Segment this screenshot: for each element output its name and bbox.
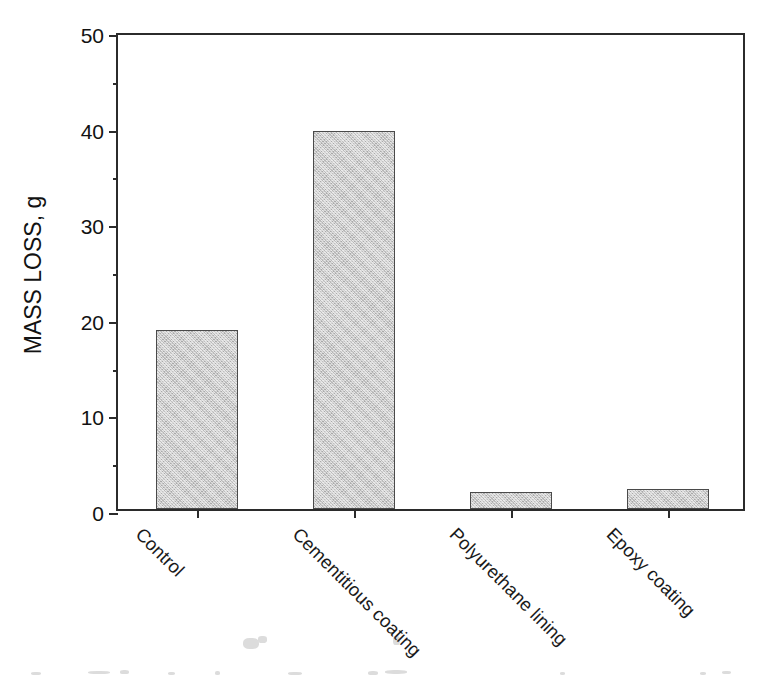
bar — [156, 330, 238, 509]
scan-smudge — [700, 672, 706, 675]
bars-layer — [118, 35, 743, 509]
scan-smudge — [258, 636, 267, 643]
y-tick-major — [109, 131, 118, 133]
bar — [313, 131, 395, 509]
scan-smudge — [31, 672, 41, 675]
scan-smudge — [88, 671, 110, 674]
x-tick — [197, 509, 199, 518]
y-tick-major — [109, 513, 118, 515]
scan-smudge — [722, 671, 731, 674]
scan-artifact — [0, 636, 777, 685]
scan-smudge — [385, 670, 407, 674]
x-tick-label: Polyurethane lining — [446, 525, 570, 649]
bar — [470, 492, 552, 509]
scan-smudge — [243, 638, 259, 649]
x-tick-label: Epoxy coating — [603, 525, 698, 620]
y-tick-label: 20 — [81, 311, 104, 332]
y-tick-label: 0 — [92, 503, 104, 524]
y-tick-major — [109, 226, 118, 228]
x-tick — [511, 509, 513, 518]
y-tick-label: 10 — [81, 407, 104, 428]
y-tick-label: 50 — [81, 25, 104, 46]
scan-smudge — [560, 672, 565, 675]
x-tick-label: Cementitious coating — [289, 525, 424, 660]
bar-chart-figure: MASS LOSS, g 01020304050 ControlCementit… — [0, 0, 777, 685]
x-tick — [354, 509, 356, 518]
x-tick — [668, 509, 670, 518]
scan-smudge — [168, 672, 175, 675]
y-tick-label: 40 — [81, 120, 104, 141]
scan-smudge — [368, 671, 378, 675]
y-tick-major — [109, 322, 118, 324]
y-tick-label: 30 — [81, 216, 104, 237]
bar — [627, 489, 709, 509]
scan-smudge — [288, 672, 302, 675]
scan-smudge — [215, 671, 220, 675]
x-tick-label: Control — [132, 525, 187, 580]
y-tick-major — [109, 35, 118, 37]
y-tick-major — [109, 417, 118, 419]
scan-smudge — [120, 670, 129, 674]
y-axis-title: MASS LOSS, g — [22, 196, 45, 355]
plot-area: 01020304050 ControlCementitious coatingP… — [116, 33, 745, 511]
